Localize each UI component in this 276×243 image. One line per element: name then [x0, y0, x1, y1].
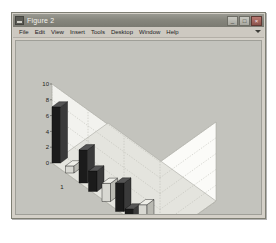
- bar-3d[interactable]: [102, 178, 118, 201]
- menu-item-desktop[interactable]: Desktop: [108, 27, 136, 37]
- bar-front-face: [139, 205, 148, 214]
- y-axis-tick-label: 0: [46, 160, 50, 166]
- x-axis-tick-label: 1: [60, 184, 64, 190]
- maximize-button[interactable]: □: [239, 16, 250, 26]
- window-title: Figure 2: [27, 14, 226, 27]
- bar-side-face: [61, 102, 68, 163]
- y-axis-tick-label: 6: [46, 113, 50, 119]
- title-bar[interactable]: Figure 2 _ □ ×: [13, 14, 264, 27]
- maximize-icon: □: [240, 17, 249, 25]
- bar-3d[interactable]: [52, 102, 68, 163]
- menu-item-window[interactable]: Window: [136, 27, 163, 37]
- bar-front-face: [125, 209, 134, 214]
- bar-3d[interactable]: [89, 166, 105, 192]
- menu-bar: File Edit View Insert Tools Desktop Wind…: [13, 27, 264, 38]
- bar3-chart: 0246810123: [16, 41, 261, 214]
- bar-front-face: [79, 150, 88, 183]
- close-button[interactable]: ×: [251, 16, 262, 26]
- minimize-icon: _: [228, 17, 237, 25]
- y-axis-tick-label: 2: [46, 144, 50, 150]
- bar-front-face: [52, 107, 61, 163]
- bar-front-face: [66, 166, 75, 173]
- bar-front-face: [102, 183, 111, 201]
- bar-front-face: [89, 171, 98, 192]
- y-axis-tick-label: 10: [42, 81, 49, 87]
- bar-front-face: [116, 183, 125, 211]
- menu-item-view[interactable]: View: [48, 27, 67, 37]
- close-icon: ×: [252, 17, 261, 25]
- minimize-button[interactable]: _: [227, 16, 238, 26]
- x-axis-tick-label: 2: [97, 213, 101, 215]
- chevron-down-icon[interactable]: [255, 30, 261, 33]
- menu-item-help[interactable]: Help: [163, 27, 181, 37]
- menu-item-edit[interactable]: Edit: [32, 27, 48, 37]
- desktop-background: Figure 2 _ □ × File Edit View Insert Too…: [0, 0, 276, 243]
- y-axis-tick-label: 4: [46, 129, 50, 135]
- figure-window: Figure 2 _ □ × File Edit View Insert Too…: [11, 12, 266, 219]
- figure-canvas[interactable]: 0246810123: [15, 40, 262, 215]
- menu-item-tools[interactable]: Tools: [88, 27, 108, 37]
- menu-item-file[interactable]: File: [16, 27, 32, 37]
- matlab-figure-icon: [15, 16, 24, 25]
- menu-item-insert[interactable]: Insert: [67, 27, 88, 37]
- y-axis-tick-label: 8: [46, 97, 50, 103]
